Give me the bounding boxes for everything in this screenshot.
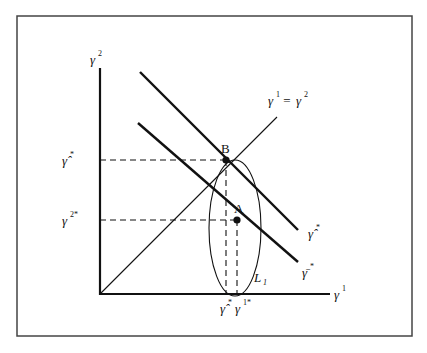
y-tick-upper-sup: * — [70, 150, 74, 159]
y-tick-lower-sup: 2* — [70, 210, 78, 219]
x-axis-label-sup: 1 — [342, 284, 346, 293]
diagram-figure: B A γ 2 γ 1 γ 1 = γ 2 γ̂ * γ̄ * γ̂ * γ 2… — [0, 0, 427, 353]
upper-budget-line — [140, 72, 298, 230]
x-axis-label: γ — [334, 287, 340, 302]
svg-text:γ: γ — [296, 93, 302, 108]
diagonal-line — [100, 117, 277, 294]
y-axis-label: γ — [90, 52, 96, 67]
curve-l1-sub: 1 — [263, 278, 267, 287]
point-b — [222, 156, 229, 163]
figure-frame — [17, 16, 412, 336]
lower-line-label-sup: * — [310, 262, 314, 271]
x-tick-right-label: γ — [235, 301, 241, 316]
x-tick-right-sup: 1* — [243, 298, 251, 307]
y-tick-lower-label: γ — [62, 213, 68, 228]
upper-line-label-sup: * — [316, 223, 320, 232]
y-axis-label-sup: 2 — [98, 49, 102, 58]
svg-text:γ: γ — [268, 93, 274, 108]
lower-budget-line — [138, 123, 298, 262]
svg-text:2: 2 — [304, 90, 308, 99]
curve-l1-label: L — [253, 270, 261, 285]
x-tick-left-sup: * — [228, 298, 232, 307]
point-a — [233, 216, 240, 223]
point-a-label: A — [234, 201, 244, 216]
diagonal-label: γ 1 = γ 2 — [268, 90, 308, 108]
svg-text:=: = — [280, 93, 294, 108]
point-b-label: B — [221, 141, 230, 156]
